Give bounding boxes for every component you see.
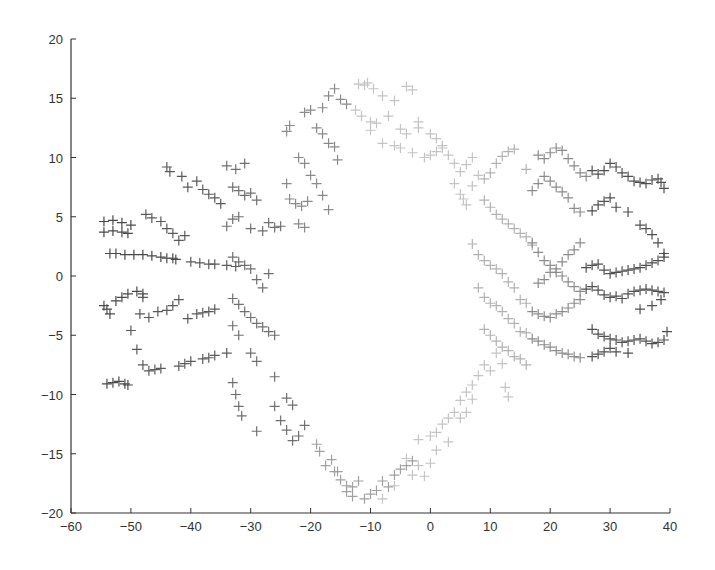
plus-marker-icon xyxy=(635,177,645,187)
plus-marker-icon xyxy=(318,129,328,139)
plus-marker-icon xyxy=(144,366,154,376)
plus-marker-icon xyxy=(288,436,298,446)
y-tick-label: 10 xyxy=(49,151,63,166)
plus-marker-icon xyxy=(210,304,220,314)
plus-marker-icon xyxy=(473,250,483,260)
plus-marker-icon xyxy=(252,195,262,205)
plus-marker-icon xyxy=(300,158,310,168)
plus-marker-icon xyxy=(503,147,513,157)
plus-marker-icon xyxy=(389,141,399,151)
plus-marker-icon xyxy=(443,150,453,160)
plus-marker-icon xyxy=(198,354,208,364)
plus-marker-icon xyxy=(617,266,627,276)
plus-marker-icon xyxy=(479,360,489,370)
plus-marker-icon xyxy=(300,420,310,430)
plus-marker-icon xyxy=(228,294,238,304)
series-outer-left xyxy=(99,215,181,390)
plus-marker-icon xyxy=(401,453,411,463)
plus-marker-icon xyxy=(162,224,172,234)
plus-marker-icon xyxy=(231,164,241,174)
plus-marker-icon xyxy=(282,393,292,403)
series-center-light xyxy=(351,78,514,504)
plus-marker-icon xyxy=(252,426,262,436)
plus-marker-icon xyxy=(611,291,621,301)
plus-marker-icon xyxy=(617,337,627,347)
plus-marker-icon xyxy=(500,382,510,392)
plus-marker-icon xyxy=(108,378,118,388)
plus-marker-icon xyxy=(264,269,274,279)
plus-marker-icon xyxy=(455,167,465,177)
plus-marker-icon xyxy=(413,461,423,471)
plus-marker-icon xyxy=(360,494,370,504)
plus-marker-icon xyxy=(318,103,328,113)
plus-marker-icon xyxy=(198,308,208,318)
plus-marker-icon xyxy=(521,164,531,174)
plus-marker-icon xyxy=(156,216,166,226)
plus-marker-icon xyxy=(497,151,507,161)
plus-marker-icon xyxy=(357,111,367,121)
plus-marker-icon xyxy=(135,309,145,319)
plus-marker-icon xyxy=(126,326,136,336)
x-tick-label: 20 xyxy=(543,519,557,534)
plus-marker-icon xyxy=(509,318,519,328)
plus-marker-icon xyxy=(162,305,172,315)
plus-marker-icon xyxy=(354,79,364,89)
series-left-mid xyxy=(126,162,241,376)
plus-marker-icon xyxy=(479,292,489,302)
plus-marker-icon xyxy=(563,193,573,203)
plus-marker-icon xyxy=(491,209,501,219)
plus-marker-icon xyxy=(246,224,256,234)
plus-marker-icon xyxy=(635,334,645,344)
plus-marker-icon xyxy=(303,196,313,206)
plus-marker-icon xyxy=(605,334,615,344)
plus-marker-icon xyxy=(461,160,471,170)
plus-marker-icon xyxy=(270,222,280,232)
plus-marker-icon xyxy=(617,294,627,304)
plus-marker-icon xyxy=(515,327,525,337)
plus-marker-icon xyxy=(395,143,405,153)
plus-marker-icon xyxy=(389,470,399,480)
plus-marker-icon xyxy=(222,348,232,358)
plus-marker-icon xyxy=(635,263,645,273)
plus-marker-icon xyxy=(563,349,573,359)
x-tick-label: −20 xyxy=(300,519,322,534)
plus-marker-icon xyxy=(605,292,615,302)
plus-marker-icon xyxy=(551,182,561,192)
y-tick-label: −5 xyxy=(48,328,63,343)
plus-marker-icon xyxy=(473,371,483,381)
plus-marker-icon xyxy=(138,360,148,370)
plus-marker-icon xyxy=(282,179,292,189)
plus-marker-icon xyxy=(479,256,489,266)
plus-marker-icon xyxy=(599,331,609,341)
plus-marker-icon xyxy=(425,129,435,139)
plus-marker-icon xyxy=(252,356,262,366)
x-tick-label: −60 xyxy=(60,519,82,534)
plus-marker-icon xyxy=(557,187,567,197)
plus-marker-icon xyxy=(108,226,118,236)
plus-marker-icon xyxy=(467,153,477,163)
plus-marker-icon xyxy=(647,285,657,295)
plus-marker-icon xyxy=(599,290,609,300)
plus-marker-icon xyxy=(407,456,417,466)
plus-marker-icon xyxy=(509,224,519,234)
plus-marker-icon xyxy=(291,199,301,209)
plus-marker-icon xyxy=(150,365,160,375)
plus-marker-icon xyxy=(174,295,184,305)
plus-marker-icon xyxy=(593,349,603,359)
plus-marker-icon xyxy=(491,158,501,168)
plus-marker-icon xyxy=(557,145,567,155)
plus-marker-icon xyxy=(114,376,124,386)
plus-marker-icon xyxy=(258,283,268,293)
plus-marker-icon xyxy=(485,366,495,376)
plus-marker-icon xyxy=(527,186,537,196)
plus-marker-icon xyxy=(389,481,399,491)
plus-marker-icon xyxy=(99,216,109,226)
y-tick-label: 0 xyxy=(56,269,63,284)
plus-marker-icon xyxy=(641,336,651,346)
plus-marker-icon xyxy=(497,359,507,369)
plus-marker-icon xyxy=(377,476,387,486)
plus-marker-icon xyxy=(641,284,651,294)
plus-marker-icon xyxy=(497,214,507,224)
plus-marker-icon xyxy=(641,260,651,270)
plus-marker-icon xyxy=(497,269,507,279)
